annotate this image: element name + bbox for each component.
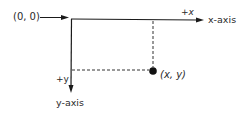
y-axis-line [69, 19, 74, 93]
x-direction-label: +x [181, 8, 194, 17]
x-axis-label: x-axis [208, 15, 236, 25]
origin-pointer-arrow [40, 15, 69, 20]
point-marker [149, 67, 157, 75]
y-axis-label: y-axis [56, 98, 84, 108]
x-axis-line [71, 18, 204, 23]
point-label: (x, y) [160, 70, 186, 80]
y-direction-label: +y [56, 75, 69, 84]
origin-label: (0, 0) [13, 12, 40, 22]
